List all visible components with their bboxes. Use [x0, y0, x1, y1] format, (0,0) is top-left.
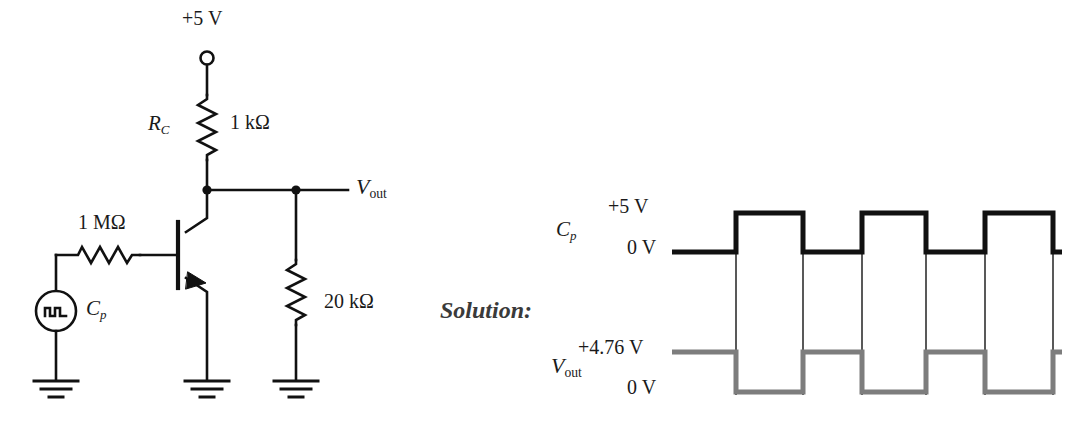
waveform-input-symbol: C [556, 217, 570, 241]
pulse-source-label: Cp [86, 298, 107, 321]
waveform-output-subscript: out [564, 365, 581, 380]
collector-resistor-symbol: R [148, 111, 161, 135]
collector-resistor-value: 1 kΩ [230, 112, 270, 132]
supply-voltage-label: +5 V [182, 8, 222, 28]
wire-emitter-lead [186, 278, 207, 380]
waveform-guide-lines [736, 215, 1053, 395]
resistor-base-icon [56, 247, 140, 263]
waveform-trace-input [672, 213, 1062, 252]
resistor-rc-icon [198, 95, 216, 160]
collector-resistor-label: RC [148, 113, 170, 136]
waveform-output-low-label: 0 V [627, 377, 656, 397]
waveform-input-high-label: +5 V [608, 196, 648, 216]
wire-collector-lead [186, 190, 207, 232]
waveform-input-name: Cp [556, 219, 577, 242]
ground-symbol-load [274, 381, 318, 397]
vout-symbol: V [356, 174, 369, 199]
collector-resistor-subscript: C [161, 122, 170, 137]
load-resistor-value: 20 kΩ [324, 291, 374, 311]
ground-symbol-source [34, 381, 78, 397]
solution-label: Solution: [440, 298, 532, 322]
waveform-trace-output [672, 352, 1062, 392]
supply-terminal-icon [201, 52, 214, 65]
resistor-load-icon [287, 260, 305, 325]
base-resistor-value: 1 MΩ [78, 212, 126, 232]
ground-symbol-emitter [185, 381, 229, 397]
pulse-source-subscript: p [100, 307, 107, 322]
vout-node-label: Vout [356, 176, 387, 200]
circuit-schematic [0, 0, 430, 428]
waveform-plot [660, 180, 1067, 410]
waveform-output-high-label: +4.76 V [578, 337, 643, 357]
pulse-source-symbol: C [86, 296, 100, 320]
waveform-output-name: Vout [551, 355, 582, 379]
transistor-emitter-arrow-icon [186, 272, 206, 289]
vout-subscript: out [369, 186, 386, 201]
waveform-input-low-label: 0 V [627, 237, 656, 257]
waveform-output-symbol: V [551, 353, 564, 378]
waveform-input-subscript: p [570, 228, 577, 243]
